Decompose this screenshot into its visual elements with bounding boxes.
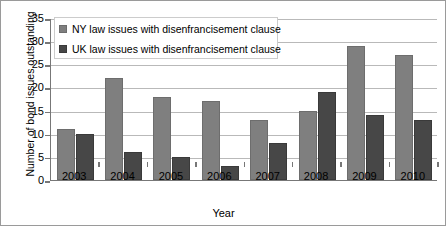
- y-tick-label: 35: [0, 13, 44, 24]
- gridline: [51, 65, 437, 66]
- x-tick-mark: [195, 162, 197, 167]
- legend-label-uk: UK law issues with disenfrancisement cla…: [72, 43, 281, 55]
- y-tick-label: 10: [0, 129, 44, 140]
- legend-label-ny: NY law issues with disenfrancisement cla…: [72, 23, 281, 35]
- y-tick-label: 0: [0, 175, 44, 186]
- y-tick-label: 20: [0, 82, 44, 93]
- chart-legend: NY law issues with disenfrancisement cla…: [54, 17, 278, 59]
- x-tick-label: 2007: [255, 170, 279, 182]
- y-tick-label: 30: [0, 36, 44, 47]
- x-tick-mark: [437, 162, 439, 167]
- y-tick-label: 15: [0, 106, 44, 117]
- x-tick-label: 2004: [110, 170, 134, 182]
- x-tick-label: 2003: [62, 170, 86, 182]
- bar: [318, 92, 336, 180]
- x-tick-label: 2010: [401, 170, 425, 182]
- x-tick-label: 2006: [207, 170, 231, 182]
- legend-item-uk: UK law issues with disenfrancisement cla…: [59, 39, 281, 58]
- y-tick-label: 25: [0, 59, 44, 70]
- x-tick-mark: [244, 162, 246, 167]
- bar: [347, 46, 365, 180]
- bar-chart-figure: Number of bond issues outstanding 051015…: [0, 0, 447, 227]
- legend-swatch-icon-ny: [59, 25, 67, 33]
- legend-item-ny: NY law issues with disenfrancisement cla…: [59, 19, 281, 38]
- bar: [105, 78, 123, 180]
- x-tick-mark: [340, 162, 342, 167]
- y-tick-label: 5: [0, 152, 44, 163]
- x-axis-title: Year: [0, 207, 447, 219]
- x-tick-mark: [389, 162, 391, 167]
- x-tick-label: 2009: [352, 170, 376, 182]
- x-tick-mark: [98, 162, 100, 167]
- bar: [395, 55, 413, 180]
- x-tick-label: 2005: [159, 170, 183, 182]
- y-tick-mark: [45, 181, 50, 183]
- x-tick-mark: [292, 162, 294, 167]
- legend-swatch-icon-uk: [59, 45, 67, 53]
- bar: [202, 101, 220, 180]
- x-tick-mark: [147, 162, 149, 167]
- x-tick-label: 2008: [304, 170, 328, 182]
- bar: [153, 97, 171, 180]
